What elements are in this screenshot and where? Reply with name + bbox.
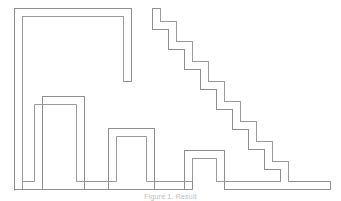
figure-caption: Figure 1. Result xyxy=(0,193,341,201)
staircase-outer-line xyxy=(153,9,281,182)
corridor-figure-svg xyxy=(0,0,341,201)
left-spiral-outer-line xyxy=(15,9,132,190)
zigzag-inner-line xyxy=(23,105,281,182)
corridor-outer-boundary xyxy=(15,9,331,191)
lower-zigzag-group xyxy=(15,97,331,190)
staircase-group xyxy=(153,9,289,182)
figure-canvas: Figure 1. Result xyxy=(0,0,341,201)
left-spiral-group xyxy=(15,9,132,190)
zigzag-outer-line xyxy=(15,97,331,190)
